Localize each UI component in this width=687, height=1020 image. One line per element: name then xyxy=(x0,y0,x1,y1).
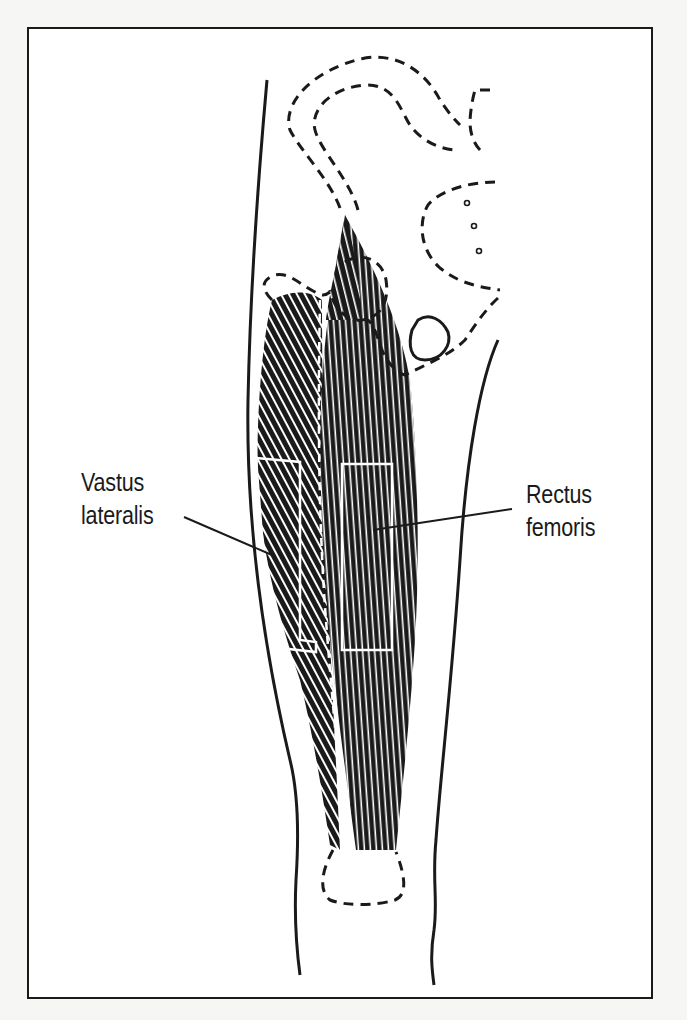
label-rectus-femoris-line2: femoris xyxy=(526,511,595,544)
thigh-outline-medial xyxy=(432,340,498,985)
pubic-dots xyxy=(465,201,482,254)
label-rectus-femoris: Rectus femoris xyxy=(526,478,595,544)
vastus-lateralis-leader-line xyxy=(184,517,272,555)
label-rectus-femoris-line1: Rectus xyxy=(526,478,595,511)
label-vastus-lateralis: Vastus lateralis xyxy=(81,466,154,532)
label-vastus-lateralis-line2: lateralis xyxy=(81,499,154,532)
rectus-femoris-upper xyxy=(326,215,360,320)
obturator-foramen xyxy=(410,317,449,360)
label-vastus-lateralis-line1: Vastus xyxy=(81,466,154,499)
